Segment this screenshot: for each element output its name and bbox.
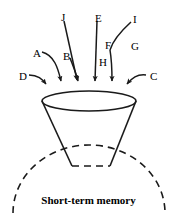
label-e: E [95,13,102,24]
arrow-c [127,75,146,84]
label-i: I [133,14,137,25]
arrow-i [110,22,131,50]
label-h: H [99,57,107,68]
label-b: B [63,51,70,62]
arrow-d [29,75,46,84]
arrow-e [95,21,97,81]
label-a: A [33,48,41,59]
figure-caption: Short-term memory [0,194,177,206]
diagram-canvas [0,0,177,213]
label-d: D [19,71,27,82]
label-j: J [61,12,65,23]
memory-funnel-diagram: A B C D E F G H I J Short-term memory [0,0,177,213]
funnel-rim-front [42,101,136,111]
funnel-wall-left [42,101,72,166]
funnel-rim-back [42,91,136,101]
label-g: G [131,41,139,52]
label-c: C [150,71,157,82]
label-f: F [105,40,111,51]
arrow-a [42,52,61,81]
arrow-h [110,50,112,81]
